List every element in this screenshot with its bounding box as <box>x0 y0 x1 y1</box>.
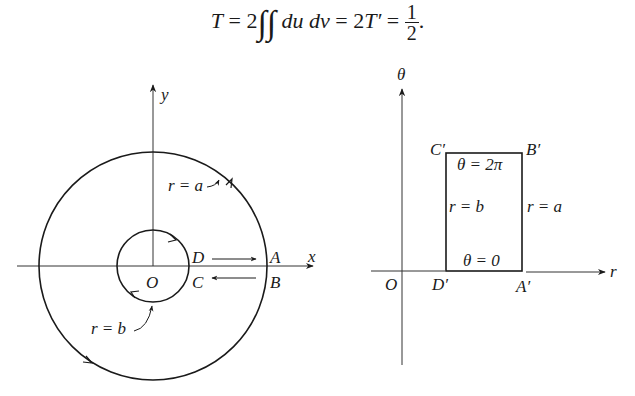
point-label-a: A <box>269 248 281 267</box>
leader-r-b <box>134 306 152 331</box>
origin-label: O <box>146 273 158 292</box>
left-figure: x y O r = a r = b D C A B <box>17 85 316 380</box>
bottom-edge-label: θ = 0 <box>463 251 500 270</box>
point-label-d: D <box>191 248 205 267</box>
theta-axis-label: θ <box>397 65 405 84</box>
top-edge-label: θ = 2π <box>457 155 503 174</box>
right-figure: θ r O C′ B′ D′ A′ θ = 2π θ = 0 r = b r =… <box>371 65 617 365</box>
point-label-c: C <box>192 273 204 292</box>
corner-label-a-prime: A′ <box>515 277 530 296</box>
left-edge-label: r = b <box>449 197 484 216</box>
diagram-canvas: x y O r = a r = b D C A B θ r O C′ B′ D′… <box>0 0 635 396</box>
y-axis-label: y <box>159 85 169 104</box>
outer-circle-label: r = a <box>168 176 203 195</box>
point-label-b: B <box>270 273 281 292</box>
inner-circle-label: r = b <box>91 319 126 338</box>
right-edge-label: r = a <box>527 197 562 216</box>
origin-label-right: O <box>385 275 397 294</box>
corner-label-b-prime: B′ <box>526 140 540 159</box>
inner-circle-arrow-icon <box>168 234 176 242</box>
inner-circle-arrow-icon <box>131 291 139 298</box>
x-axis-label: x <box>307 247 316 266</box>
leader-r-a <box>207 180 219 187</box>
r-axis-label: r <box>610 262 617 281</box>
corner-label-c-prime: C′ <box>430 140 445 159</box>
corner-label-d-prime: D′ <box>431 275 448 294</box>
